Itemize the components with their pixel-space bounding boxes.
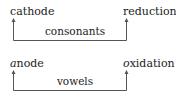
term-oxidation: oxidation bbox=[123, 58, 175, 70]
connector-label-vowels: vowels bbox=[40, 75, 110, 87]
arrow-up-icon bbox=[125, 70, 129, 74]
connector-label-consonants: consonants bbox=[40, 25, 110, 37]
first-letter: o bbox=[123, 57, 130, 70]
term-reduction: reduction bbox=[123, 6, 176, 18]
term-cathode: cathode bbox=[10, 6, 54, 18]
arrow-up-icon bbox=[12, 70, 16, 74]
arrow-up-icon bbox=[12, 18, 16, 22]
arrow-up-icon bbox=[125, 18, 129, 22]
term-anode: anode bbox=[10, 58, 44, 70]
